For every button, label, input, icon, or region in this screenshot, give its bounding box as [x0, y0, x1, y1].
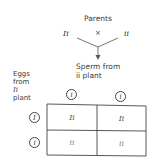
parent-left-genotype: Ii — [63, 29, 69, 38]
eggs-label-line: Eggs — [13, 70, 31, 78]
eggs-label-line: plant — [13, 94, 31, 102]
eggs-label-line: from — [13, 78, 31, 86]
sperm-allele-2: i — [115, 91, 126, 102]
egg-allele-1: I — [29, 112, 40, 123]
sperm-label-line1: Sperm from — [76, 62, 120, 71]
cross-symbol: × — [95, 29, 101, 37]
punnett-cell: ii — [47, 130, 97, 155]
punnett-cell: Ii — [47, 104, 97, 130]
punnett-cell: ii — [97, 131, 146, 156]
parents-title: Parents — [84, 14, 112, 23]
egg-allele-2: i — [29, 137, 40, 148]
parent-right-genotype: ii — [124, 29, 129, 38]
sperm-allele-1: i — [66, 89, 77, 100]
eggs-label: Eggs from Ii plant — [13, 70, 31, 102]
sperm-label-line2: ii plant — [76, 71, 102, 80]
eggs-label-line: Ii — [13, 86, 31, 94]
punnett-cell: Ii — [97, 105, 146, 131]
